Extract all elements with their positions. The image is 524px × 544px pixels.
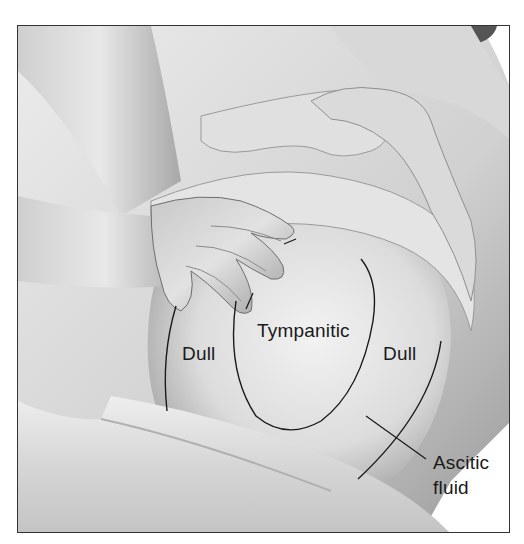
label-dull-left: Dull — [182, 344, 216, 363]
label-tympanitic: Tympanitic — [257, 321, 350, 340]
label-ascitic: Ascitic — [433, 453, 489, 472]
illustration-frame: Dull Tympanitic Dull Ascitic fluid — [17, 25, 510, 533]
label-fluid: fluid — [433, 478, 469, 497]
label-dull-right: Dull — [383, 344, 417, 363]
